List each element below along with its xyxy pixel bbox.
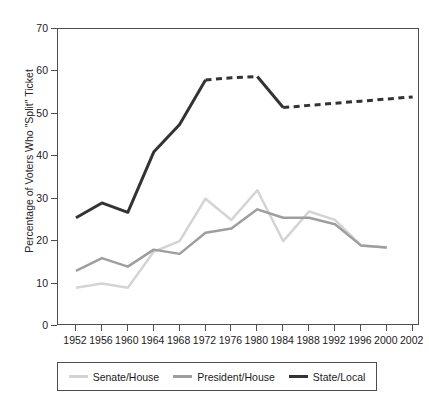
legend-label-state-local: State/Local xyxy=(313,371,366,383)
series-line-state-local xyxy=(206,77,258,80)
y-tick-label: 30 xyxy=(0,193,48,203)
y-tick-label: 50 xyxy=(0,108,48,118)
series-line-state-local xyxy=(257,77,283,108)
chart-title xyxy=(0,0,429,11)
plot-area xyxy=(57,28,419,325)
chart-figure: Percentage of Voters Who "Split" Ticket … xyxy=(0,0,429,405)
series-lines xyxy=(58,29,420,326)
legend-label-senate-house: Senate/House xyxy=(93,371,160,383)
series-line-state-local xyxy=(283,97,413,108)
x-tick-label: 2002 xyxy=(392,334,429,346)
y-tick-label: 10 xyxy=(0,278,48,288)
y-tick-label: 40 xyxy=(0,150,48,160)
legend-label-president-house: President/House xyxy=(197,371,275,383)
y-tick-label: 20 xyxy=(0,235,48,245)
legend-item-senate-house[interactable]: Senate/House xyxy=(69,371,160,383)
chart-legend: Senate/HousePresident/HouseState/Local xyxy=(57,362,377,391)
y-tick-label: 0 xyxy=(0,320,48,330)
legend-item-president-house[interactable]: President/House xyxy=(173,371,275,383)
series-line-senate-house xyxy=(76,190,387,288)
legend-swatch-senate-house xyxy=(69,375,88,378)
legend-item-state-local[interactable]: State/Local xyxy=(289,371,366,383)
series-line-state-local xyxy=(76,80,206,218)
legend-swatch-state-local xyxy=(289,375,308,378)
legend-swatch-president-house xyxy=(173,375,192,378)
y-tick-mark xyxy=(51,325,57,326)
y-tick-label: 60 xyxy=(0,65,48,75)
y-tick-label: 70 xyxy=(0,23,48,33)
